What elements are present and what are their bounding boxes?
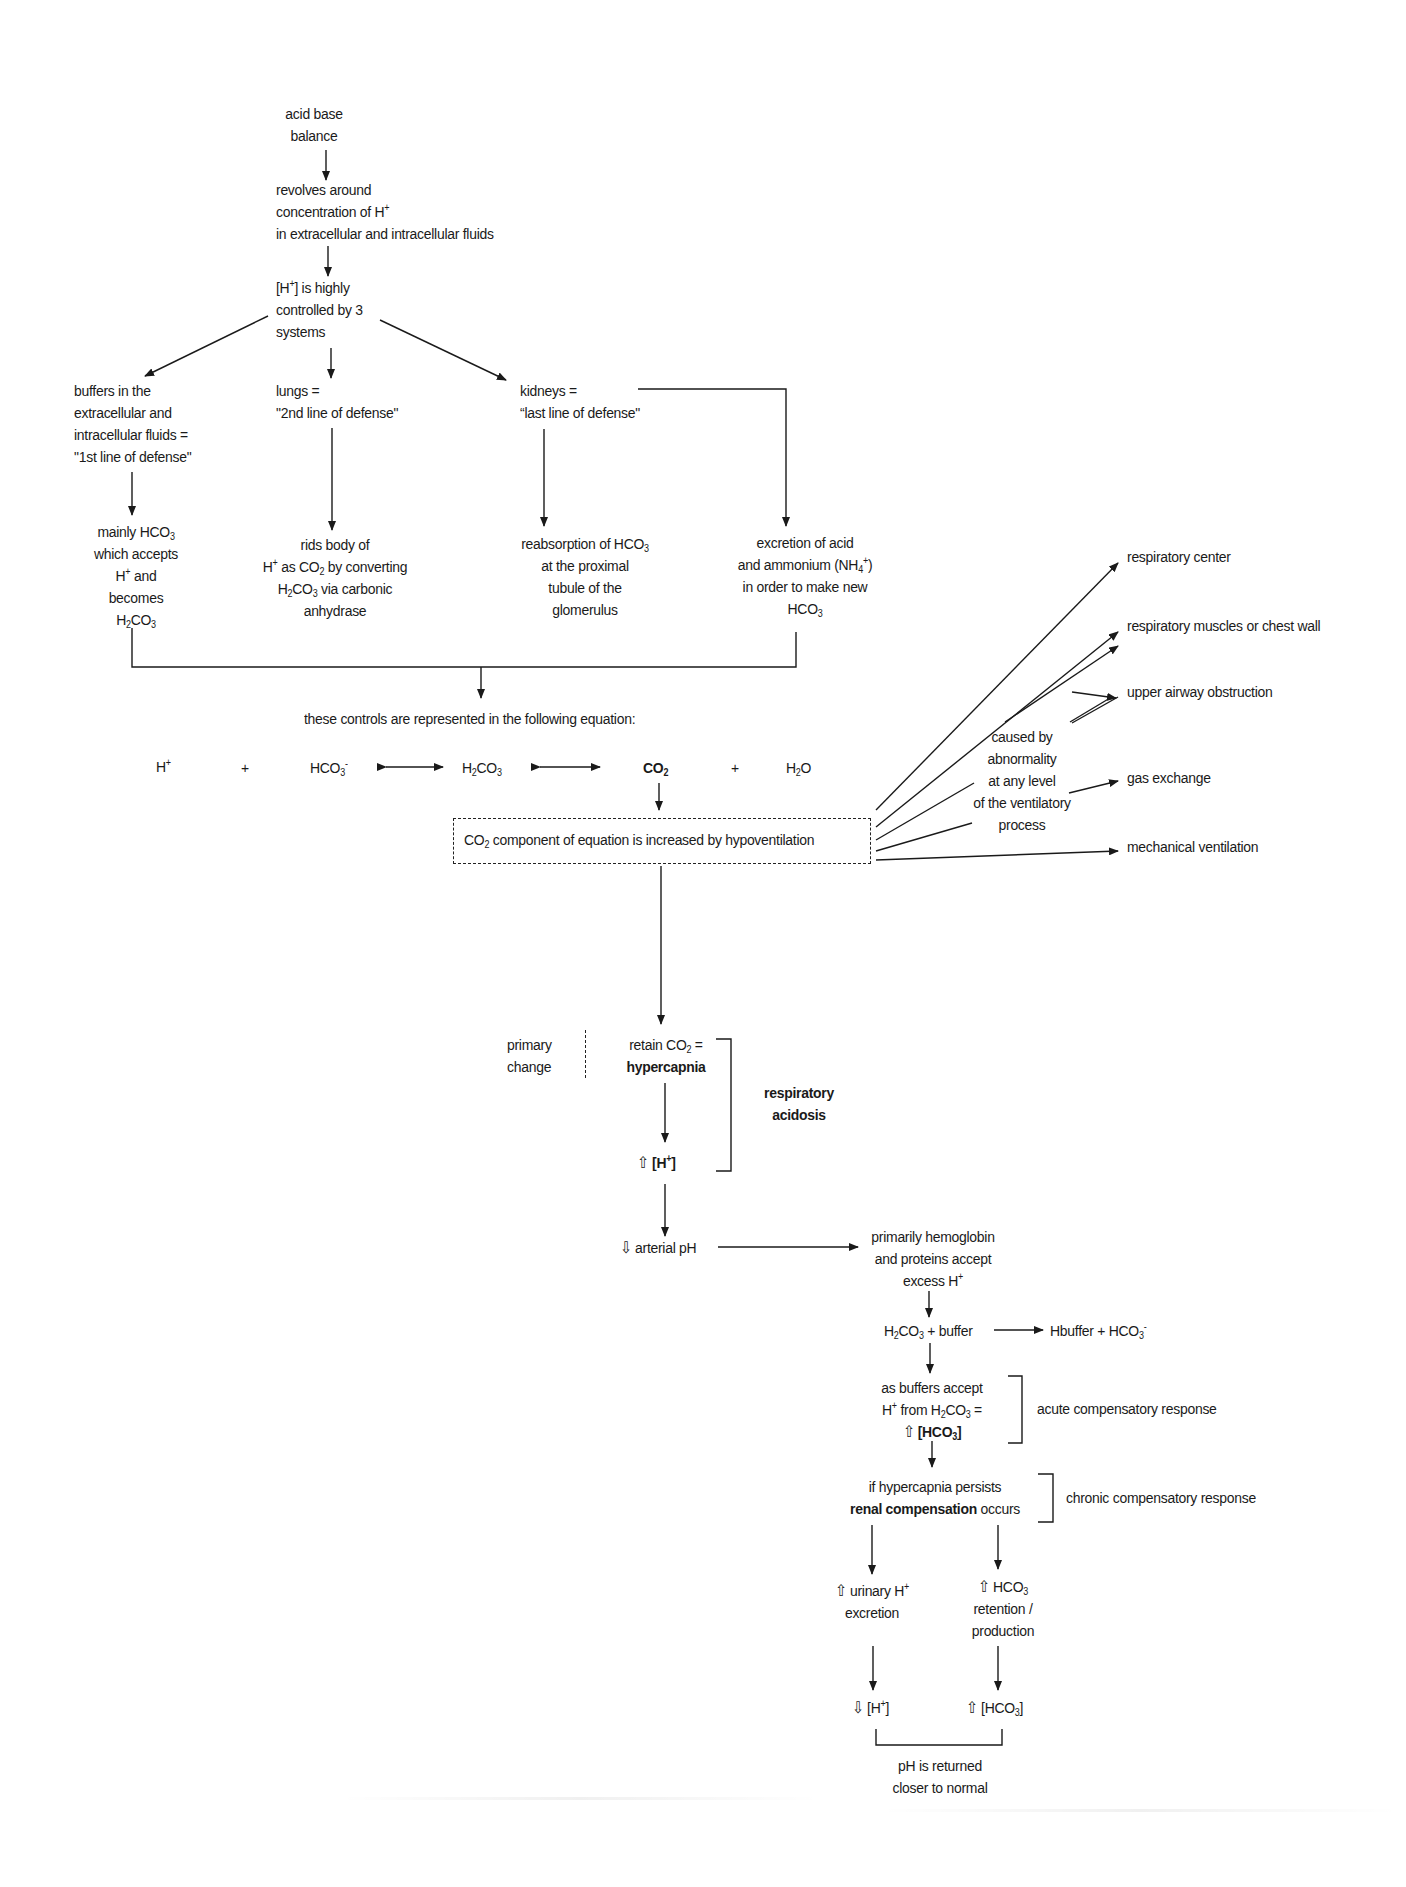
node-hbuffer-hco3: Hbuffer + HCO3- [1050, 1320, 1146, 1342]
label-acute-compensatory-response: acute compensatory response [1037, 1398, 1217, 1420]
label-respiratory-acidosis: respiratory acidosis [750, 1082, 849, 1126]
node-buffers-detail: mainly HCO3 which accepts H+ and becomes… [78, 521, 193, 631]
eq-plus-2: + [731, 757, 739, 779]
node-h2co3-buffer: H2CO3 + buffer [884, 1320, 973, 1342]
node-revolves-around: revolves around concentration of H+ in e… [276, 179, 494, 245]
node-hco3-retention: ⇧ HCO3 retention / production [963, 1576, 1044, 1642]
cause-mechanical-ventilation: mechanical ventilation [1127, 836, 1258, 858]
connector-lines [0, 0, 1406, 1887]
cause-upper-airway: upper airway obstruction [1127, 681, 1273, 703]
node-retain-co2: retain CO2 = hypercapnia [612, 1034, 720, 1078]
node-increased-h: ⇧ [H+] [637, 1152, 676, 1174]
eq-bicarbonate: HCO3- [310, 757, 348, 779]
node-arterial-ph: ⇩ arterial pH [620, 1237, 696, 1259]
primary-change-divider [585, 1030, 586, 1078]
node-caused-by: caused by abnormality at any level of th… [966, 726, 1078, 836]
node-kidneys-excretion: excretion of acid and ammonium (NH4+) in… [724, 532, 886, 620]
node-acid-base-balance: acid base balance [267, 103, 361, 147]
scan-artifact [340, 1797, 820, 1800]
scan-artifact [880, 1809, 1400, 1812]
node-renal-compensation: if hypercapnia persists renal compensati… [850, 1476, 1021, 1520]
node-kidneys: kidneys = “last line of defense" [520, 380, 640, 424]
node-kidneys-reabsorption: reabsorption of HCO3 at the proximal tub… [509, 533, 662, 621]
node-urinary-h-excretion: ⇧ urinary H+ excretion [827, 1580, 917, 1624]
node-as-buffers-accept: as buffers accept H+ from H2CO3 = ⇧ [HCO… [869, 1377, 995, 1443]
co2-hypoventilation-text: CO2 component of equation is increased b… [464, 829, 814, 851]
node-lungs-detail: rids body of H+ as CO2 by converting H2C… [259, 534, 412, 622]
cause-respiratory-center: respiratory center [1127, 546, 1231, 568]
node-buffers: buffers in the extracellular and intrace… [74, 380, 191, 468]
cause-respiratory-muscles: respiratory muscles or chest wall [1127, 615, 1320, 637]
label-primary-change: primary change [507, 1034, 552, 1078]
label-chronic-compensatory-response: chronic compensatory response [1066, 1487, 1256, 1509]
node-decreased-h: ⇩ [H+] [852, 1697, 889, 1719]
eq-co2: CO2 [643, 757, 668, 779]
node-hemoglobin-buffers: primarily hemoglobin and proteins accept… [866, 1226, 1001, 1292]
node-h-controlled: [H+] is highly controlled by 3 systems [276, 277, 363, 343]
eq-carbonic-acid: H2CO3 [462, 757, 502, 779]
equation-intro: these controls are represented in the fo… [304, 708, 635, 730]
eq-water: H2O [786, 757, 811, 779]
cause-gas-exchange: gas exchange [1127, 767, 1211, 789]
eq-plus-1: + [241, 757, 249, 779]
node-increased-hco3: ⇧ [HCO3] [966, 1697, 1023, 1719]
eq-h-ion: H+ [156, 756, 171, 778]
node-lungs: lungs = "2nd line of defense" [276, 380, 398, 424]
node-ph-returned: pH is returned closer to normal [886, 1755, 994, 1799]
